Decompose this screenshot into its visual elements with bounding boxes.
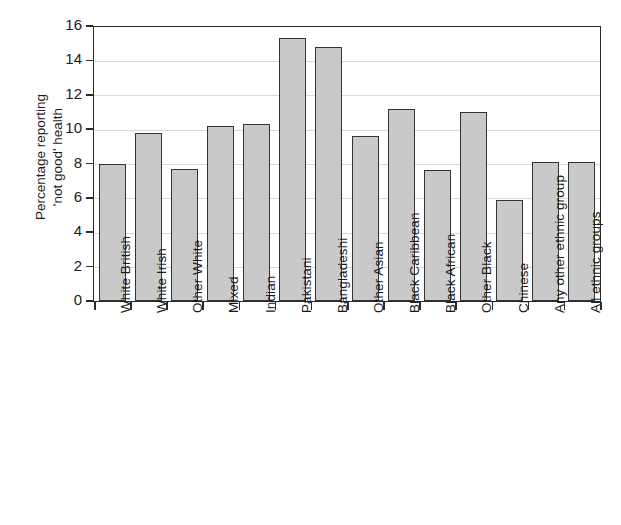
y-axis-tick-label: 2 — [52, 257, 82, 274]
x-axis-tick-label: Other Asian — [371, 241, 386, 313]
y-axis-tick — [86, 197, 93, 199]
x-axis-tick-label: All ethnic groups — [588, 211, 603, 313]
x-axis-tick-label: White Irish — [154, 248, 169, 313]
x-axis-tick-label: Bangladeshi — [335, 238, 350, 313]
x-axis-tick-label: Other White — [190, 240, 205, 313]
x-axis-tick-label: Pakistani — [299, 257, 314, 313]
y-axis-tick-label: 12 — [52, 85, 82, 102]
y-axis-tick-label: 10 — [52, 119, 82, 136]
x-axis-tick — [94, 302, 96, 310]
x-axis-tick-label: Black Caribbean — [407, 212, 422, 313]
y-axis-tick — [86, 94, 93, 96]
x-axis-tick-label: Indian — [263, 276, 278, 313]
bar — [207, 126, 234, 301]
y-axis-tick — [86, 128, 93, 130]
x-axis-tick-label: Any other ethnic group — [552, 175, 567, 313]
x-axis-tick-label: White British — [118, 236, 133, 313]
y-axis-tick — [86, 25, 93, 27]
y-axis-tick-label: 0 — [52, 291, 82, 308]
y-axis-tick-label: 4 — [52, 222, 82, 239]
y-axis-tick — [86, 231, 93, 233]
x-axis-tick-label: Chinese — [516, 263, 531, 313]
y-axis-tick — [86, 300, 93, 302]
y-axis-tick-label: 14 — [52, 50, 82, 67]
x-axis-tick-label: Other Black — [479, 241, 494, 313]
y-axis-tick — [86, 163, 93, 165]
bar — [243, 124, 270, 301]
x-axis-tick-label: Mixed — [226, 276, 241, 313]
y-axis-tick — [86, 60, 93, 62]
y-axis-tick — [86, 266, 93, 268]
x-axis-tick-label: Black African — [443, 234, 458, 313]
y-axis-tick-label: 16 — [52, 16, 82, 33]
y-axis-tick-label: 8 — [52, 154, 82, 171]
y-axis-tick-label: 6 — [52, 188, 82, 205]
cut-off-title — [62, 0, 392, 4]
bar-chart: Percentage reporting 'not good' health 0… — [0, 0, 621, 525]
